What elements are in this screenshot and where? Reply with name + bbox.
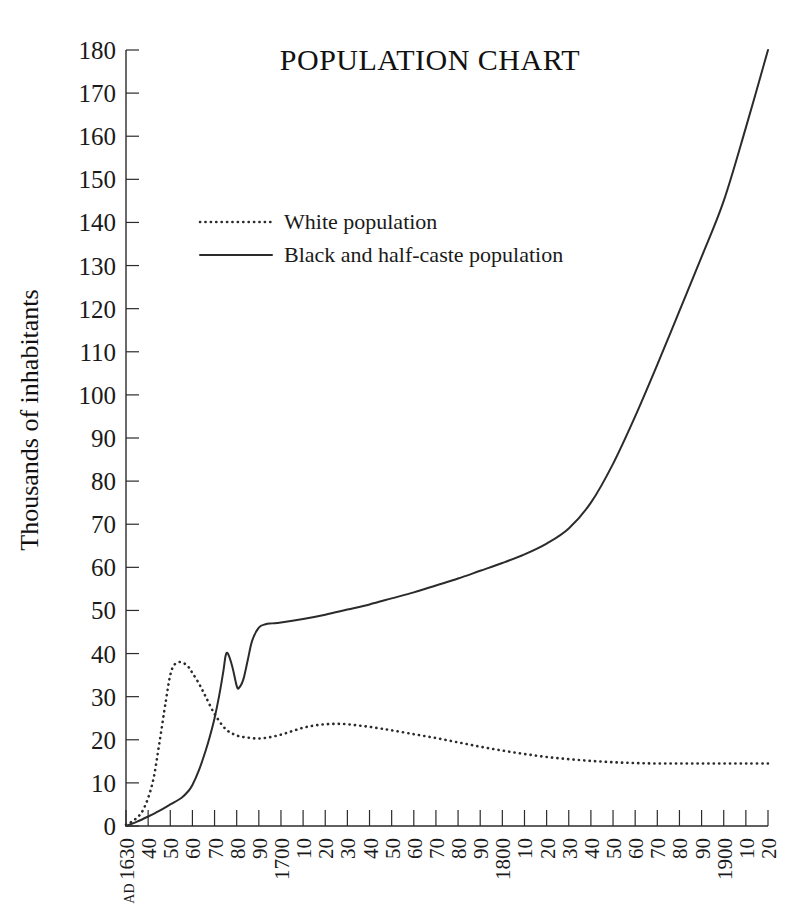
- x-tick-label: 80: [668, 838, 692, 859]
- x-tick-label: 90: [691, 838, 715, 859]
- y-tick-label: 60: [91, 554, 116, 581]
- x-axis-ticks: AD 1630405060708090170010203040506070809…: [115, 810, 781, 904]
- x-tick-label: AD 1630: [115, 838, 139, 904]
- x-tick-label: 90: [248, 838, 272, 859]
- legend-label-white-population: White population: [284, 209, 437, 234]
- y-tick-label: 90: [91, 425, 116, 452]
- x-tick-label: 60: [181, 838, 205, 859]
- x-tick-label: 40: [359, 838, 383, 859]
- x-tick-label: 20: [757, 838, 781, 859]
- population-chart-figure: POPULATION CHART Thousands of inhabitant…: [0, 0, 806, 922]
- x-tick-label: 70: [646, 838, 670, 859]
- y-tick-label: 120: [79, 296, 117, 323]
- chart-title: POPULATION CHART: [280, 43, 580, 76]
- y-axis-title-label: Thousands of inhabitants: [15, 289, 44, 550]
- y-tick-label: 170: [79, 80, 117, 107]
- x-tick-label: 30: [558, 838, 582, 859]
- y-tick-label: 0: [104, 813, 117, 840]
- x-tick-label: 40: [137, 838, 161, 859]
- x-tick-label: 70: [204, 838, 228, 859]
- x-tick-label: 60: [624, 838, 648, 859]
- x-tick-label: 80: [447, 838, 471, 859]
- x-tick-label: 1700: [270, 838, 294, 880]
- series-line-solid: [126, 50, 768, 826]
- legend-label-black-population: Black and half-caste population: [284, 242, 563, 267]
- y-tick-label: 140: [79, 209, 117, 236]
- y-tick-label: 100: [79, 382, 117, 409]
- x-tick-label: 30: [336, 838, 360, 859]
- x-tick-label: 80: [226, 838, 250, 859]
- y-tick-label: 180: [79, 37, 117, 64]
- y-tick-label: 10: [91, 770, 116, 797]
- chart-canvas: POPULATION CHART Thousands of inhabitant…: [0, 0, 806, 922]
- series-line-dotted: [126, 662, 768, 825]
- y-tick-label: 20: [91, 727, 116, 754]
- x-tick-label: 70: [425, 838, 449, 859]
- y-tick-label: 40: [91, 641, 116, 668]
- x-tick-label: 50: [159, 838, 183, 859]
- x-tick-label: 10: [513, 838, 537, 859]
- y-tick-label: 80: [91, 468, 116, 495]
- y-tick-label: 50: [91, 597, 116, 624]
- x-tick-label: 10: [292, 838, 316, 859]
- y-tick-label: 130: [79, 253, 117, 280]
- x-tick-label: 90: [469, 838, 493, 859]
- x-tick-label: 60: [403, 838, 427, 859]
- x-tick-label: 10: [735, 838, 759, 859]
- x-tick-label: 20: [536, 838, 560, 859]
- chart-legend: White population Black and half-caste po…: [200, 209, 563, 267]
- x-tick-label: 1800: [491, 838, 515, 880]
- y-tick-label: 30: [91, 684, 116, 711]
- y-tick-label: 70: [91, 511, 116, 538]
- y-tick-label: 110: [79, 339, 116, 366]
- y-axis-title: Thousands of inhabitants: [15, 289, 44, 550]
- x-tick-label: 50: [381, 838, 405, 859]
- x-tick-label: 20: [314, 838, 338, 859]
- x-tick-label: 1900: [713, 838, 737, 880]
- chart-series-group: [126, 50, 768, 826]
- y-tick-label: 150: [79, 166, 117, 193]
- x-tick-label: 50: [602, 838, 626, 859]
- x-tick-label: 40: [580, 838, 604, 859]
- y-axis-ticks: 0102030405060708090100110120130140150160…: [79, 37, 140, 840]
- y-tick-label: 160: [79, 123, 117, 150]
